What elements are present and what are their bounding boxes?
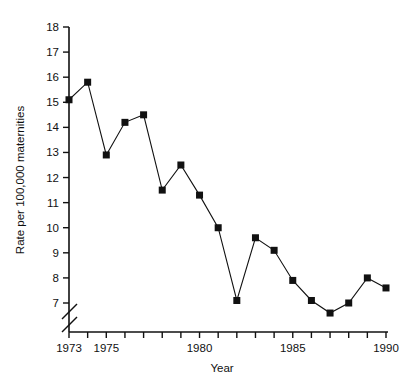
data-point-marker bbox=[66, 96, 73, 103]
line-chart: Rate per 100,000 maternities Year 789101… bbox=[0, 0, 411, 380]
y-tick-label: 18 bbox=[46, 21, 59, 33]
y-tick-label: 17 bbox=[46, 46, 59, 58]
x-axis-title-group: Year bbox=[210, 362, 233, 374]
data-point-marker bbox=[308, 297, 315, 304]
x-tick-label: 1980 bbox=[187, 342, 213, 354]
chart-container: Rate per 100,000 maternities Year 789101… bbox=[0, 0, 411, 380]
y-tick-label: 8 bbox=[53, 272, 59, 284]
y-tick-label: 11 bbox=[47, 197, 59, 209]
data-point-marker bbox=[327, 310, 334, 317]
data-point-marker bbox=[121, 119, 128, 126]
data-point-marker bbox=[233, 297, 240, 304]
y-tick-label: 10 bbox=[46, 222, 59, 234]
data-point-marker bbox=[140, 111, 147, 118]
data-point-marker bbox=[345, 300, 352, 307]
x-tick-label: 1990 bbox=[373, 342, 399, 354]
y-tick-label: 12 bbox=[46, 172, 59, 184]
y-tick-label: 13 bbox=[46, 146, 59, 158]
data-point-marker bbox=[289, 277, 296, 284]
x-tick-label: 1973 bbox=[56, 342, 82, 354]
data-point-marker bbox=[159, 187, 166, 194]
data-point-marker bbox=[383, 284, 390, 291]
y-tick-label: 14 bbox=[46, 121, 59, 133]
data-point-marker bbox=[271, 247, 278, 254]
data-series-line bbox=[69, 82, 386, 313]
y-axis-title: Rate per 100,000 maternities bbox=[14, 106, 26, 255]
data-point-marker bbox=[84, 79, 91, 86]
data-point-marker bbox=[103, 151, 110, 158]
data-point-marker bbox=[177, 162, 184, 169]
y-axis-title-group: Rate per 100,000 maternities bbox=[14, 106, 26, 255]
x-tick-label: 1985 bbox=[280, 342, 306, 354]
data-point-marker bbox=[215, 224, 222, 231]
data-point-marker bbox=[196, 192, 203, 199]
y-tick-label: 9 bbox=[53, 247, 59, 259]
x-tick-label: 1975 bbox=[93, 342, 119, 354]
data-point-marker bbox=[364, 274, 371, 281]
data-series-markers bbox=[66, 79, 390, 317]
y-axis: 789101112131415161718 bbox=[46, 21, 69, 332]
y-tick-label: 7 bbox=[53, 297, 59, 309]
y-tick-label: 15 bbox=[46, 96, 59, 108]
data-point-marker bbox=[252, 234, 259, 241]
y-tick-label: 16 bbox=[46, 71, 59, 83]
x-axis: 19731975198019851990 bbox=[56, 332, 399, 354]
x-axis-title: Year bbox=[210, 362, 233, 374]
